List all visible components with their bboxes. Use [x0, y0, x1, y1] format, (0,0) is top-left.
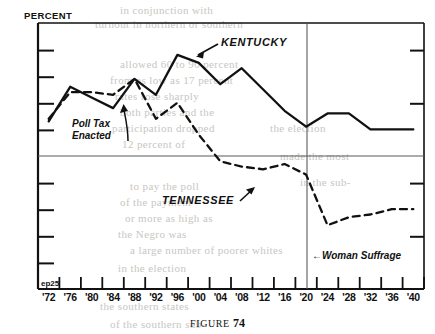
series-line-tennessee [49, 79, 414, 225]
poll-tax-arrow-icon [120, 104, 128, 141]
y-tick-marks [38, 51, 54, 264]
series-line-kentucky [49, 55, 414, 129]
tennessee-arrow-icon [240, 187, 255, 201]
x-tick-marks [59, 277, 424, 289]
kentucky-arrow-icon [196, 44, 218, 59]
chart-figure [0, 0, 435, 334]
